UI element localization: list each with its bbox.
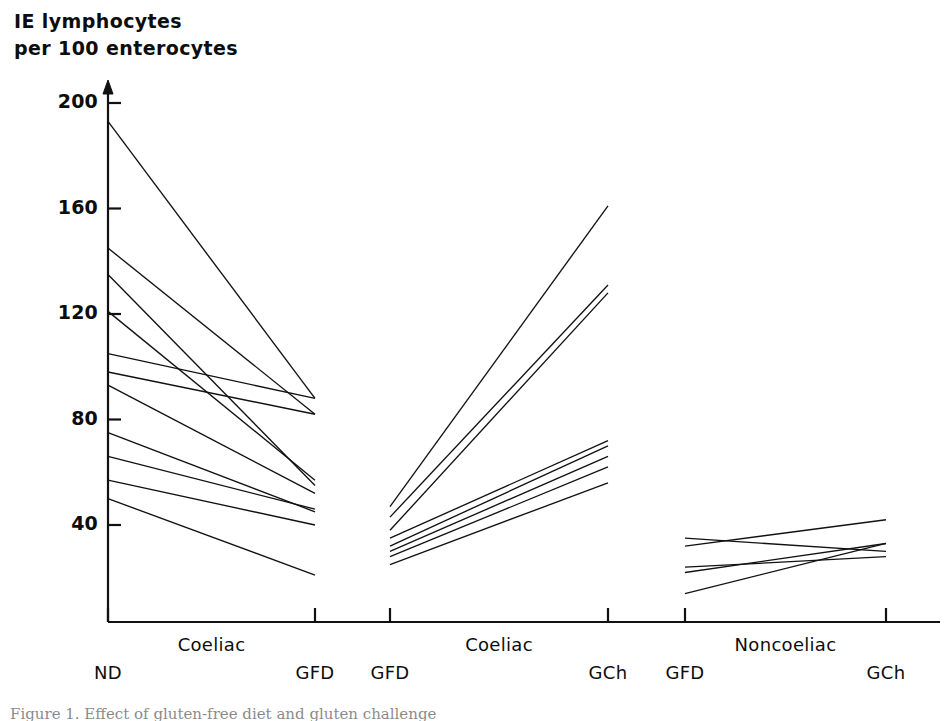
subject-line <box>108 274 315 485</box>
subject-line <box>108 385 315 493</box>
subject-line <box>108 248 315 414</box>
figure-root: IE lymphocytes per 100 enterocytes 20016… <box>0 0 951 721</box>
x-tick-label-gch-5: GCh <box>841 662 931 683</box>
figure-caption: Figure 1. Effect of gluten-free diet and… <box>10 705 945 721</box>
x-tick-label-gfd-2: GFD <box>345 662 435 683</box>
subject-line <box>108 499 315 575</box>
chart-plot-area <box>0 0 951 721</box>
y-tick-label: 80 <box>50 407 98 429</box>
y-axis-arrow-icon <box>103 80 113 94</box>
subject-line <box>108 456 315 509</box>
subject-line <box>685 538 886 551</box>
panel-2-lines <box>685 520 886 594</box>
subject-line <box>108 354 315 399</box>
subject-line <box>685 520 886 546</box>
x-tick-label-nd-0: ND <box>63 662 153 683</box>
x-tick-label-gfd-4: GFD <box>640 662 730 683</box>
x-group-label-2: Noncoeliac <box>706 634 866 655</box>
y-tick-label: 40 <box>50 512 98 534</box>
panel-0-lines <box>108 121 315 575</box>
subject-line <box>390 467 608 557</box>
y-tick-label: 120 <box>50 301 98 323</box>
subject-line <box>108 311 315 480</box>
subject-line <box>390 285 608 517</box>
y-tick-label: 160 <box>50 196 98 218</box>
subject-line <box>108 480 315 525</box>
subject-line <box>108 121 315 398</box>
subject-line <box>108 372 315 414</box>
x-group-label-0: Coeliac <box>132 634 292 655</box>
subject-line <box>108 433 315 512</box>
panel-1-lines <box>390 206 608 565</box>
y-tick-label: 200 <box>50 90 98 112</box>
subject-line <box>390 456 608 551</box>
x-group-label-1: Coeliac <box>419 634 579 655</box>
